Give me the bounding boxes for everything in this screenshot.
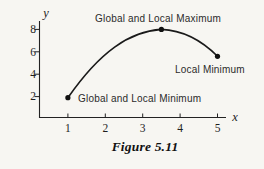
global-min-annotation: Global and Local Minimum bbox=[78, 93, 201, 105]
x-tick-label-1: 1 bbox=[65, 122, 71, 135]
x-tick-label-3: 3 bbox=[140, 122, 146, 135]
figure-5-11: y x 8 6 4 2 1 2 3 4 5 Global and Local M… bbox=[0, 0, 264, 169]
global-max-annotation: Global and Local Maximum bbox=[95, 13, 221, 25]
y-tick-label-2: 2 bbox=[20, 90, 36, 103]
y-tick-label-6: 6 bbox=[20, 46, 36, 59]
x-tick-label-2: 2 bbox=[102, 122, 108, 135]
y-axis-label: y bbox=[43, 7, 49, 20]
y-tick-label-8: 8 bbox=[20, 23, 36, 36]
global-min-point bbox=[65, 95, 70, 100]
x-axis-label: x bbox=[232, 110, 238, 123]
y-tick-label-4: 4 bbox=[20, 68, 36, 81]
local-min-point bbox=[215, 54, 220, 59]
local-min-annotation: Local Minimum bbox=[175, 64, 245, 76]
x-tick-label-5: 5 bbox=[215, 122, 221, 135]
global-max-point bbox=[159, 27, 164, 32]
figure-caption: Figure 5.11 bbox=[112, 140, 179, 154]
x-tick-label-4: 4 bbox=[177, 122, 183, 135]
